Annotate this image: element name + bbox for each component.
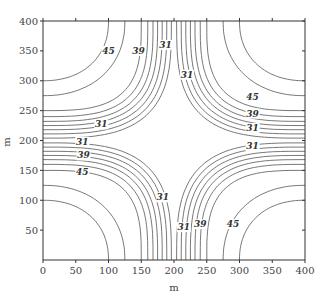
contour-line-bottom-left [43, 147, 167, 260]
contour-label: 39 [77, 150, 90, 160]
contour-line-bottom-left [43, 155, 158, 260]
contour-line-bottom-right [240, 200, 306, 260]
contour-line-top-right [181, 21, 305, 134]
contour-label: 31 [95, 119, 108, 129]
contour-line-bottom-right [190, 155, 305, 260]
contour-line-top-left [43, 21, 167, 134]
contour-label: 39 [132, 46, 145, 56]
contour-line-bottom-right [181, 147, 305, 260]
contour-line-bottom-left [43, 164, 148, 260]
contour-label: 45 [76, 167, 89, 177]
contour-line-top-left [43, 21, 158, 126]
x-tick-label: 250 [197, 265, 216, 276]
x-axis-label: m [169, 282, 179, 293]
contour-label: 31 [181, 70, 194, 80]
contour-label: 31 [157, 192, 170, 202]
contour-line-top-left [43, 21, 141, 111]
contour-line-top-right [200, 21, 305, 117]
x-tick-label: 0 [40, 265, 46, 276]
x-tick-label: 400 [295, 265, 314, 276]
y-tick-label: 50 [25, 225, 38, 236]
y-tick-label: 100 [19, 195, 38, 206]
contour-label: 31 [246, 141, 259, 151]
y-tick-label: 300 [19, 75, 38, 86]
contour-label: 31 [159, 40, 172, 50]
x-tick-label: 100 [99, 265, 118, 276]
x-tick-label: 150 [132, 265, 151, 276]
y-tick-label: 250 [19, 105, 38, 116]
contour-line-bottom-left [43, 170, 141, 260]
y-tick-label: 200 [19, 135, 38, 146]
x-tick-label: 50 [69, 265, 82, 276]
contour-line-top-right [223, 21, 305, 96]
y-tick-label: 400 [19, 16, 38, 27]
contour-label: 39 [246, 109, 259, 119]
x-tick-label: 200 [164, 265, 183, 276]
contour-line-bottom-left [43, 185, 125, 260]
contour-label: 31 [246, 123, 259, 133]
contour-line-bottom-right [207, 170, 305, 260]
contour-label: 45 [227, 219, 240, 229]
contour-line-top-left [43, 21, 148, 117]
contour-label: 45 [246, 92, 259, 102]
y-axis-label: m [1, 137, 12, 147]
contour-label: 39 [194, 219, 207, 229]
contour-line-bottom-left [43, 200, 109, 260]
contour-line-top-left [43, 21, 125, 96]
x-tick-label: 350 [263, 265, 282, 276]
contour-label: 45 [102, 46, 115, 56]
contour-line-bottom-right [200, 164, 305, 260]
y-tick-label: 150 [19, 165, 38, 176]
contour-line-top-left [43, 21, 109, 81]
x-tick-label: 300 [230, 265, 249, 276]
y-tick-label: 350 [19, 45, 38, 56]
contour-line-top-right [240, 21, 306, 81]
contour-label: 31 [76, 137, 89, 147]
contour-chart: 45393131314539313139453131313945 0501001… [0, 0, 325, 296]
contour-label: 31 [178, 222, 191, 232]
